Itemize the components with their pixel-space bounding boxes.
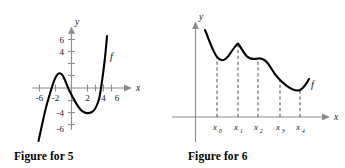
svg-text:0: 0 — [219, 127, 223, 134]
figure-6-curve — [205, 30, 309, 91]
x-axis-label: x — [333, 112, 339, 122]
y-axis — [192, 22, 199, 143]
figure-6-caption: Figure for 6 — [188, 150, 248, 162]
function-label-f: f — [311, 79, 316, 90]
svg-text:x: x — [275, 122, 280, 132]
y-axis-label: y — [198, 12, 204, 22]
figure-5-svg: x y f -6 -2 2 4 6 6 4 -4 -6 — [0, 0, 172, 142]
svg-text:4: 4 — [302, 127, 305, 134]
y-tick-label-neg4: -4 — [57, 108, 65, 118]
x-tick-label-neg2: -2 — [52, 93, 60, 103]
partition-label-x1: x 1 — [233, 122, 243, 134]
svg-text:x: x — [295, 122, 300, 132]
svg-text:3: 3 — [281, 127, 285, 134]
partition-label-x2: x 2 — [253, 122, 263, 134]
x-tick-label-6: 6 — [115, 93, 120, 103]
y-tick-label-4: 4 — [60, 47, 65, 57]
partition-label-x3: x 3 — [275, 122, 285, 134]
x-tick-label-2: 2 — [85, 93, 90, 103]
y-tick-label-neg6: -6 — [57, 124, 65, 134]
svg-text:1: 1 — [240, 127, 243, 134]
figure-5-plot: x y f -6 -2 2 4 6 6 4 -4 -6 — [0, 0, 172, 142]
svg-text:x: x — [233, 122, 238, 132]
svg-text:2: 2 — [260, 127, 263, 134]
figure-6-plot: x y f x 0 x 1 x 2 x 3 x 4 — [172, 0, 345, 142]
partition-label-x4: x 4 — [295, 122, 305, 134]
x-axis — [32, 85, 132, 92]
figure-6-svg: x y f x 0 x 1 x 2 x 3 x 4 — [172, 0, 345, 142]
y-tick-label-6: 6 — [60, 35, 65, 45]
figure-5-caption: Figure for 5 — [14, 150, 74, 162]
figure-6-pane: x y f x 0 x 1 x 2 x 3 x 4 — [172, 0, 345, 168]
partition-label-x0: x 0 — [212, 122, 223, 134]
y-axis — [68, 27, 75, 131]
svg-text:x: x — [253, 122, 258, 132]
x-tick-label-neg6: -6 — [36, 93, 44, 103]
function-label-f: f — [110, 51, 115, 62]
x-tick-label-4: 4 — [101, 93, 106, 103]
y-axis-label: y — [74, 17, 80, 27]
figure-5-pane: x y f -6 -2 2 4 6 6 4 -4 -6 Figure for 5 — [0, 0, 172, 168]
x-axis-label: x — [135, 83, 141, 93]
svg-text:x: x — [212, 122, 217, 132]
